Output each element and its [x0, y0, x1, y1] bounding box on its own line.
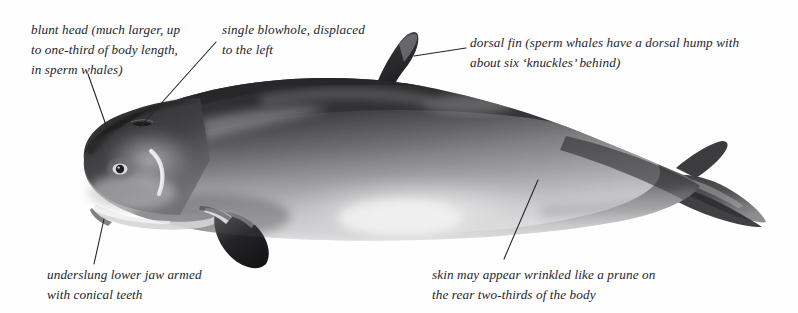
- lower-jaw-label: underslung lower jaw armed with conical …: [47, 265, 202, 305]
- blunt-head-label-line2: to one-third of body length,: [31, 42, 178, 57]
- dorsal-fin-label-line1: dorsal fin (sperm whales have a dorsal h…: [470, 35, 739, 50]
- blowhole-label-line2: to the left: [222, 42, 273, 57]
- blowhole-label: single blowhole, displaced to the left: [222, 20, 365, 60]
- lower-jaw-label-line1: underslung lower jaw armed: [47, 267, 202, 282]
- dorsal-fin-label: dorsal fin (sperm whales have a dorsal h…: [470, 33, 739, 73]
- lower-jaw-label-line2: with conical teeth: [47, 287, 143, 302]
- blunt-head-label-line3: in sperm whales): [31, 62, 123, 77]
- blowhole-label-line1: single blowhole, displaced: [222, 22, 365, 37]
- skin-texture-label: skin may appear wrinkled like a prune on…: [432, 265, 655, 305]
- figure-canvas: blunt head (much larger, up to one-third…: [0, 0, 798, 313]
- dorsal-fin-label-line2: about six ‘knuckles’ behind): [470, 55, 620, 70]
- blunt-head-label: blunt head (much larger, up to one-third…: [31, 20, 180, 79]
- skin-texture-label-line1: skin may appear wrinkled like a prune on: [432, 267, 655, 282]
- blunt-head-label-line1: blunt head (much larger, up: [31, 22, 180, 37]
- skin-texture-label-line2: the rear two-thirds of the body: [432, 287, 596, 302]
